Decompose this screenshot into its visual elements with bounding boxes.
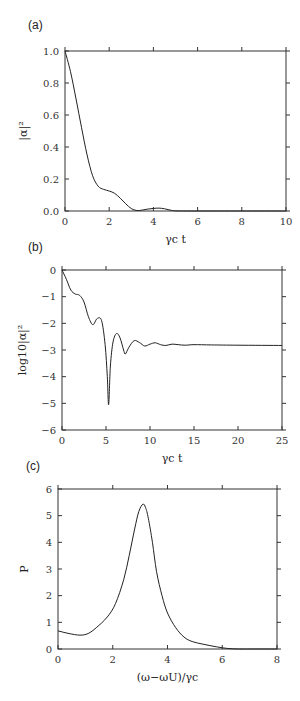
x-tick-label: 8 (274, 654, 280, 665)
y-tick-label: 3 (46, 564, 52, 575)
x-tick-label: 4 (164, 654, 170, 665)
x-axis-title: (ω−ωU)/γc (137, 671, 198, 684)
chart-c: 024680123456(ω−ωU)/γcP (0, 0, 300, 701)
y-tick-label: 1 (46, 617, 52, 628)
plot-frame (58, 489, 277, 649)
y-tick-label: 4 (46, 537, 52, 548)
y-tick-label: 0 (46, 644, 52, 655)
x-tick-label: 6 (219, 654, 225, 665)
y-tick-label: 2 (46, 590, 52, 601)
y-tick-label: 6 (46, 484, 52, 495)
x-tick-label: 0 (55, 654, 61, 665)
data-curve (58, 504, 277, 649)
panel-c: (c) 024680123456(ω−ωU)/γcP (0, 0, 300, 701)
y-axis-title: P (18, 565, 31, 573)
x-tick-label: 2 (110, 654, 116, 665)
y-tick-label: 5 (46, 510, 52, 521)
